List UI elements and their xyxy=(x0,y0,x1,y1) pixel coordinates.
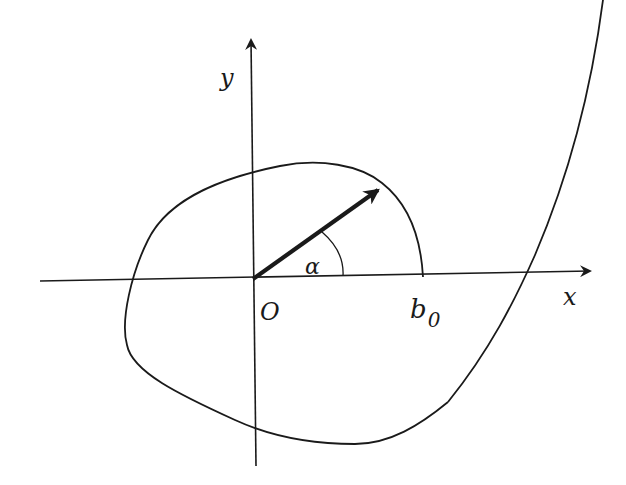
y-axis-label: y xyxy=(219,64,234,92)
angle-arc xyxy=(322,232,343,276)
outer-curve xyxy=(448,0,603,402)
x-axis-label: x xyxy=(563,283,577,311)
angle-label: α xyxy=(305,254,320,279)
diagram-canvas: y x O α b0 xyxy=(0,0,626,485)
b-main: b xyxy=(410,294,427,324)
y-axis xyxy=(251,40,256,466)
b-subscript: 0 xyxy=(428,308,441,332)
origin-label: O xyxy=(260,298,280,326)
boundary-curve xyxy=(125,163,448,444)
b0-label: b0 xyxy=(410,294,441,332)
